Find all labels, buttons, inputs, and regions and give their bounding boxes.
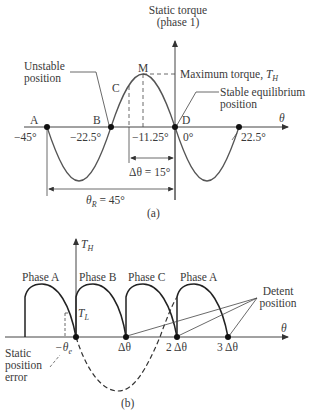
tick-3-delta-theta: 3 Δθ: [217, 341, 238, 353]
label-b: B: [93, 114, 101, 126]
delta-theta-label: Δθ = 15°: [129, 166, 170, 178]
tick-neg11-25: −11.25°: [132, 131, 169, 143]
static-error-label: Static position error: [5, 347, 42, 383]
tick-neg45: −45°: [14, 131, 37, 143]
phase-label-1: Phase A: [22, 271, 59, 283]
detent-label: Detent position: [252, 285, 304, 309]
phase-label-2: Phase B: [79, 271, 116, 283]
th-axis-label-b: TH: [81, 238, 93, 255]
theta-label-b: θ: [281, 322, 287, 334]
unstable-leader: [70, 72, 109, 125]
torque-axis-title: Static torque (phase 1): [148, 4, 208, 28]
caption-b: (b): [121, 397, 134, 409]
theta-r-label: θR = 45°: [86, 194, 125, 211]
tl-label: TL: [78, 307, 89, 324]
label-c: C: [112, 82, 120, 94]
point-b: [108, 124, 114, 130]
caption-a: (a): [147, 207, 160, 219]
theta-label-a: θ: [279, 112, 285, 124]
panel-b: [5, 239, 288, 391]
phase-a-arc: [25, 284, 76, 337]
neg-theta-e-label: −θe: [55, 341, 72, 358]
phase-label-3: Phase C: [128, 271, 165, 283]
point-e: [236, 124, 242, 130]
max-torque-label: Maximum torque, TH: [180, 68, 278, 85]
label-a: A: [30, 114, 38, 126]
tick-2-delta-theta: 2 Δθ: [166, 341, 187, 353]
tick-delta-theta: Δθ: [118, 341, 131, 353]
tick-neg22-5: −22.5°: [70, 131, 101, 143]
label-d: D: [182, 114, 190, 126]
point-d: [172, 124, 178, 130]
phase-label-4: Phase A: [180, 271, 217, 283]
unstable-label: Unstable position: [24, 60, 65, 84]
phase-a2-arc: [177, 284, 228, 337]
stable-label: Stable equilibrium position: [220, 86, 305, 110]
label-m: M: [138, 62, 148, 74]
tick-22-5: 22.5°: [241, 131, 266, 143]
tick-0: 0°: [183, 131, 193, 143]
point-a: [44, 124, 50, 130]
